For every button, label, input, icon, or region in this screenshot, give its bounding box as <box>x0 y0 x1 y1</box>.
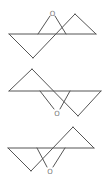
bond <box>78 91 101 116</box>
bond <box>8 148 31 171</box>
bond <box>38 16 50 34</box>
bond <box>32 69 78 116</box>
bond <box>53 148 65 167</box>
oxygen-label: O <box>54 110 60 118</box>
bond <box>75 14 96 34</box>
bond <box>9 69 32 91</box>
oxygen-label: O <box>50 10 56 18</box>
structure-1: O <box>9 10 96 58</box>
structure-3: O <box>8 127 94 176</box>
diagram-canvas: O O O <box>0 0 110 191</box>
bond <box>40 91 54 109</box>
oxygen-label: O <box>47 168 53 176</box>
bond <box>37 148 47 167</box>
bond <box>9 34 33 58</box>
structure-2: O <box>9 69 101 118</box>
bond <box>33 14 75 58</box>
bond <box>73 127 94 148</box>
